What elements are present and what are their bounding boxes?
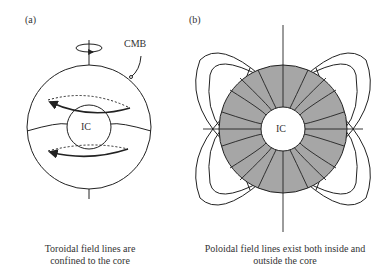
equator-left (27, 124, 67, 131)
equator-right (111, 124, 151, 131)
figure-canvas (0, 0, 392, 279)
caption-b: Poloidal field lines exist both inside a… (190, 243, 380, 267)
panel-b-label: (b) (189, 14, 201, 25)
caption-a-line1: Toroidal field lines are (20, 243, 160, 255)
caption-a-line2: confined to the core (20, 255, 160, 267)
inner-core-label-b: IC (276, 123, 286, 134)
caption-a: Toroidal field lines are confined to the… (20, 243, 160, 267)
cmb-label: CMB (124, 38, 146, 49)
inner-core-label-a: IC (81, 121, 91, 132)
panel-a-diagram (27, 40, 151, 199)
cmb-callout-line (131, 56, 141, 77)
panel-a-label: (a) (25, 14, 36, 25)
caption-b-line1: Poloidal field lines exist both inside a… (190, 243, 380, 255)
caption-b-line2: outside the core (190, 255, 380, 267)
